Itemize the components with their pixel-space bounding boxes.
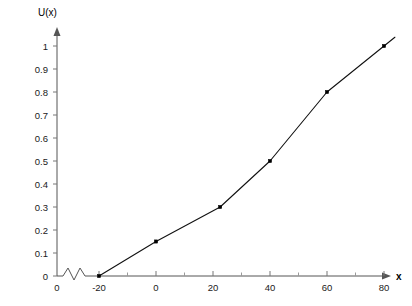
x-tick-label-2: 20 [208,282,219,293]
x-tick-label-3: 40 [265,282,276,293]
y-tick-label-7: 0.7 [35,110,48,121]
y-tick-label-1: 0.1 [35,248,48,259]
x-tick-label-0: -20 [92,282,106,293]
y-tick-label-8: 0.8 [35,87,48,98]
y-tick-label-3: 0.3 [35,202,48,213]
y-tick-label-5: 0.5 [35,156,48,167]
y-tick-label-9: 0.9 [35,64,48,75]
x-tick-label-5: 80 [379,282,390,293]
x-axis-origin-label: 0 [54,282,59,293]
x-tick-label-1: 0 [153,282,158,293]
x-tick-label-4: 60 [322,282,333,293]
chart-background [0,0,412,306]
data-point-marker [382,44,385,47]
data-point-marker [97,274,100,277]
y-tick-label-4: 0.4 [35,179,48,190]
data-point-marker [268,159,271,162]
data-point-marker [325,90,328,93]
y-tick-label-6: 0.6 [35,133,48,144]
chart-figure: U(x) 0 0.1 0.2 0.3 0.4 0.5 0.6 0.7 0.8 0… [0,0,412,306]
x-axis-title: x [396,271,402,282]
data-point-marker [219,205,222,208]
y-tick-label-10: 1 [43,41,48,52]
y-tick-label-2: 0.2 [35,225,48,236]
y-tick-label-0: 0 [43,271,48,282]
data-point-marker [154,240,157,243]
y-axis-title: U(x) [38,7,57,18]
